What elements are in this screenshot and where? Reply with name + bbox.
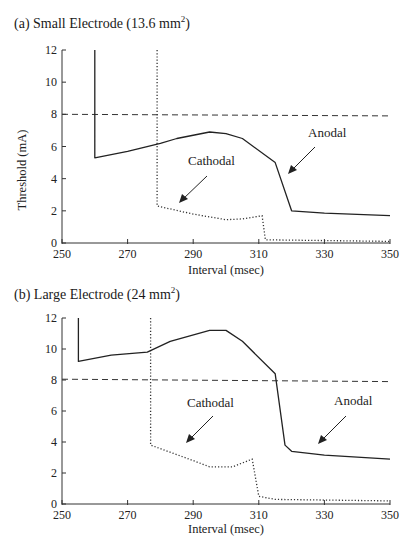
svg-text:10: 10 [45,342,57,356]
y-axis-b: 024681012 [45,311,66,511]
arrow-icon [186,416,213,443]
cathodal-annotation-b: Cathodal [187,395,234,410]
chart-b: 024681012 250270290310330350 Interval (m… [45,311,399,536]
svg-text:290: 290 [184,247,202,261]
arrow-icon [288,147,315,174]
svg-text:330: 330 [315,247,333,261]
svg-text:4: 4 [51,172,57,186]
reference-line-a [62,114,390,116]
y-axis-label-a: Threshold (mA) [15,130,29,211]
x-axis-b: 250270290310330350 [53,500,399,522]
svg-text:6: 6 [51,404,57,418]
svg-text:6: 6 [51,140,57,154]
svg-text:12: 12 [45,311,57,325]
svg-text:8: 8 [51,107,57,121]
arrow-icon [318,416,346,444]
svg-text:12: 12 [45,43,57,57]
svg-text:290: 290 [184,508,202,522]
svg-text:310: 310 [250,508,268,522]
chart-a: 024681012 250270290310330350 Threshold (… [15,43,399,277]
arrow-icon [179,176,207,203]
svg-text:10: 10 [45,75,57,89]
anodal-annotation-a: Anodal [308,125,347,140]
cathodal-series-a [157,50,390,241]
x-axis-label-a: Interval (msec) [188,263,264,277]
svg-text:250: 250 [53,508,71,522]
svg-text:250: 250 [53,247,71,261]
x-axis-label-b: Interval (msec) [188,522,264,536]
svg-text:350: 350 [381,508,399,522]
svg-text:330: 330 [315,508,333,522]
svg-text:270: 270 [119,247,137,261]
x-axis-a: 250270290310330350 [53,239,399,261]
svg-text:270: 270 [119,508,137,522]
cathodal-annotation-a: Cathodal [188,153,235,168]
reference-line-b [62,379,390,381]
svg-text:2: 2 [51,466,57,480]
svg-text:2: 2 [51,204,57,218]
svg-text:8: 8 [51,373,57,387]
y-axis-a: 024681012 [45,43,66,250]
svg-text:310: 310 [250,247,268,261]
svg-text:4: 4 [51,435,57,449]
svg-text:350: 350 [381,247,399,261]
anodal-annotation-b: Anodal [334,393,373,408]
anodal-series-b [78,318,390,459]
charts-canvas: 024681012 250270290310330350 Threshold (… [0,0,414,549]
